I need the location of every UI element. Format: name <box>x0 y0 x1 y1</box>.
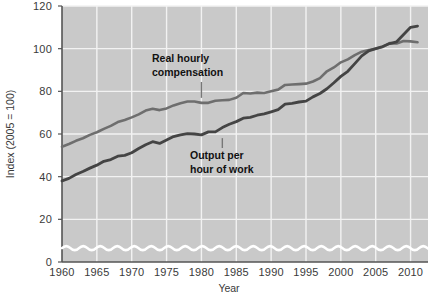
y-tick-label-80: 80 <box>39 85 52 97</box>
y-tick-label-100: 100 <box>33 43 52 55</box>
x-tick-label-2005: 2005 <box>363 266 388 278</box>
annotation-output-line2: hour of work <box>190 163 254 175</box>
annotation-compensation-line2: compensation <box>152 66 223 78</box>
x-tick-label-1965: 1965 <box>84 266 109 278</box>
annotation-output-line1: Output per <box>190 149 244 161</box>
x-tick-label-1990: 1990 <box>259 266 284 278</box>
x-tick-label-1970: 1970 <box>119 266 144 278</box>
y-tick-label-20: 20 <box>39 213 52 225</box>
line-chart: 020406080100120 196019651970197519801985… <box>0 0 438 301</box>
x-tick-label-1980: 1980 <box>189 266 214 278</box>
x-axis-tick-labels: 1960196519701975198019851990199520002005… <box>49 266 423 278</box>
chart-figure: 020406080100120 196019651970197519801985… <box>0 0 438 301</box>
x-tick-label-2010: 2010 <box>398 266 423 278</box>
y-tick-label-120: 120 <box>33 0 52 12</box>
y-axis-title: Index (2005 = 100) <box>4 90 16 178</box>
x-tick-label-1995: 1995 <box>293 266 318 278</box>
x-axis-title: Year <box>218 282 240 294</box>
x-tick-label-2000: 2000 <box>328 266 353 278</box>
y-tick-label-60: 60 <box>39 128 52 140</box>
annotation-compensation-line1: Real hourly <box>152 52 209 64</box>
y-tick-label-40: 40 <box>39 171 52 183</box>
x-tick-label-1985: 1985 <box>224 266 249 278</box>
x-tick-label-1975: 1975 <box>154 266 179 278</box>
x-tick-label-1960: 1960 <box>49 266 74 278</box>
